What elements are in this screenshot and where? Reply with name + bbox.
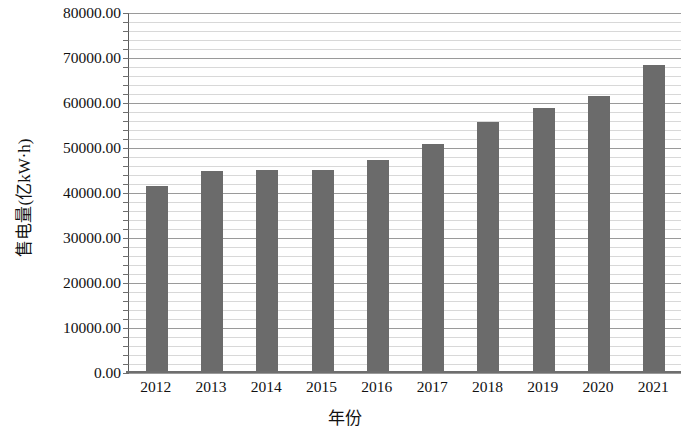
bar (367, 160, 389, 373)
y-axis-tick-label: 50000.00 (26, 140, 121, 156)
plot-area (128, 13, 681, 373)
x-axis-tick-labels: 2012201320142015201620172018201920202021 (128, 378, 681, 404)
bar (533, 108, 555, 374)
y-axis-tick-label: 20000.00 (26, 275, 121, 291)
bar (256, 170, 278, 373)
bar (477, 122, 499, 373)
x-axis-tick-label: 2012 (126, 378, 186, 396)
x-axis-tick-label: 2014 (236, 378, 296, 396)
bar (146, 186, 168, 373)
x-axis-tick-label: 2015 (292, 378, 352, 396)
bar-chart: 售电量(亿kW·h) 0.0010000.0020000.0030000.004… (0, 0, 689, 428)
gridline-major (129, 373, 681, 374)
bar-series (129, 13, 681, 373)
y-axis-tick-labels: 0.0010000.0020000.0030000.0040000.005000… (26, 0, 121, 428)
y-axis-tick-label: 10000.00 (26, 320, 121, 336)
bar (422, 144, 444, 373)
y-axis-tick (123, 373, 129, 374)
x-axis-tick-label: 2020 (568, 378, 628, 396)
x-axis-title: 年份 (0, 404, 689, 428)
x-axis-tick-label: 2016 (347, 378, 407, 396)
bar (312, 170, 334, 373)
y-axis-tick-label: 80000.00 (26, 5, 121, 21)
x-axis-tick-label: 2018 (457, 378, 517, 396)
x-axis-line (126, 371, 681, 373)
bar (201, 171, 223, 374)
bar (588, 96, 610, 373)
x-axis-tick-label: 2013 (181, 378, 241, 396)
x-axis-tick-label: 2019 (513, 378, 573, 396)
x-axis-tick-label: 2017 (402, 378, 462, 396)
y-axis-tick-label: 70000.00 (26, 50, 121, 66)
y-axis-tick-label: 30000.00 (26, 230, 121, 246)
x-axis-tick-label: 2021 (623, 378, 683, 396)
y-axis-tick-label: 40000.00 (26, 185, 121, 201)
y-axis-tick-label: 60000.00 (26, 95, 121, 111)
bar (643, 65, 665, 373)
y-axis-tick-label: 0.00 (26, 365, 121, 381)
